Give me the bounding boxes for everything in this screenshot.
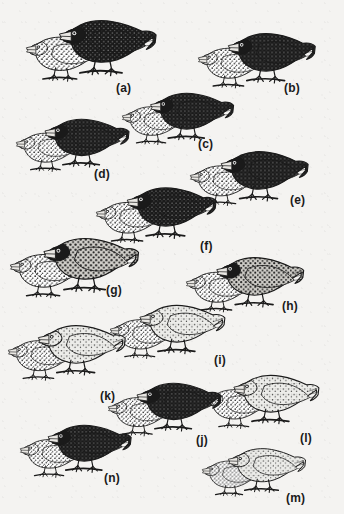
caption-m: (m): [286, 492, 305, 504]
caption-e: (e): [290, 194, 305, 206]
caption-d: (d): [94, 168, 110, 180]
illustration-plate: (a)(b)(c)(d)(e)(f)(g)(h)(i)(k)(l)(j)(n)(…: [0, 0, 344, 514]
caption-i: (i): [214, 354, 226, 366]
caption-n: (n): [104, 472, 120, 484]
caption-f: (f): [200, 240, 213, 252]
bird-group-n: [20, 416, 146, 496]
caption-b: (b): [284, 82, 300, 94]
bird-group-d: [16, 110, 146, 188]
caption-g: (g): [106, 284, 122, 296]
caption-h: (h): [282, 300, 298, 312]
caption-c: (c): [198, 138, 213, 150]
caption-a: (a): [116, 82, 131, 94]
caption-k: (k): [100, 390, 115, 402]
caption-l: (l): [300, 432, 312, 444]
caption-j: (j): [196, 434, 208, 446]
